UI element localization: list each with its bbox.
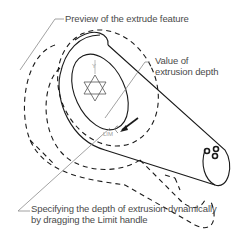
callout-value-of-depth: Value of extrusion depth [155,56,218,77]
end-cap-icons [205,147,219,159]
callout-value-line1: Value of [155,56,218,67]
callout-specify-line1: Specifying the depth of extrusion dynami… [31,204,217,215]
extrude-preview-diagram: Y LIM Preview of the extrude feature Val… [0,0,242,241]
callout-specify-depth: Specifying the depth of extrusion dynami… [31,204,217,225]
leader-lines [18,19,150,211]
handle-label: LIM [103,131,113,137]
callout-preview: Preview of the extrude feature [65,14,189,25]
limit-handle [115,118,138,133]
callout-specify-line2: by dragging the Limit handle [31,215,217,226]
extruded-profile-dashed [24,13,214,227]
axis-label-y: Y [92,63,96,69]
callout-value-line2: extrusion depth [155,67,218,78]
